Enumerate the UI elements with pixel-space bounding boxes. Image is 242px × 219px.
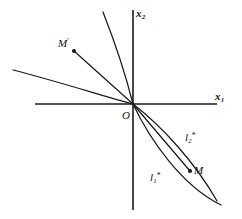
axis-label-x1-base: x: [215, 90, 221, 102]
curve-label-l2-sup: *: [192, 131, 196, 140]
math-diagram-figure: x2 x1 O M' M l2* l1*: [0, 0, 242, 219]
point-label-m-base: M: [194, 164, 203, 176]
ray-to-m: [133, 104, 190, 171]
axis-label-x1-sub: 1: [221, 96, 224, 103]
axis-label-x2-sub: 2: [142, 13, 145, 20]
point-m-marker: [188, 169, 192, 173]
curve-label-l2-star: l2*: [185, 132, 196, 145]
curve-label-l1-sup: *: [157, 171, 161, 180]
curve-label-l1-star: l1*: [150, 172, 161, 185]
point-m-prime-marker: [72, 49, 76, 53]
origin-label: O: [122, 110, 130, 121]
point-label-m-prime-sup: ': [67, 37, 68, 46]
axis-label-x2-base: x: [136, 7, 142, 19]
axis-label-x2: x2: [136, 8, 145, 21]
point-label-m: M: [194, 165, 203, 176]
point-label-m-prime: M': [58, 38, 69, 49]
diagram-canvas: [0, 0, 242, 219]
point-label-m-prime-base: M: [58, 37, 67, 49]
axis-label-x1: x1: [215, 91, 224, 104]
